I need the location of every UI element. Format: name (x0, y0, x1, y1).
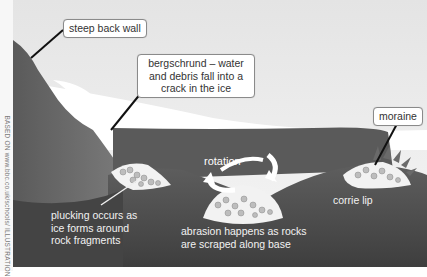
label-abrasion: abrasion happens as rocks are scraped al… (181, 225, 307, 250)
label-line: plucking occurs as (51, 209, 137, 222)
label-plucking: plucking occurs as ice forms around rock… (51, 209, 137, 247)
label-line: rock fragments (51, 234, 137, 247)
credit-strip: BASED ON www.bbc.co.uk/schools/ ILLUSTRA… (0, 0, 13, 271)
label-line: abrasion happens as rocks (181, 225, 307, 238)
label-text: steep back wall (69, 22, 141, 34)
label-line: crack in the ice (143, 82, 249, 95)
label-text: moraine (379, 110, 417, 122)
label-line: bergschrund – water (143, 57, 249, 70)
label-line: are scraped along base (181, 238, 307, 251)
label-steep-back-wall: steep back wall (63, 19, 147, 38)
label-corrie-lip: corrie lip (333, 194, 373, 207)
label-line: and debris fall into a (143, 70, 249, 83)
corrie-diagram: steep back wall bergschrund – water and … (13, 0, 427, 267)
label-moraine: moraine (373, 107, 423, 126)
label-rotation: rotation (204, 155, 241, 167)
label-bergschrund: bergschrund – water and debris fall into… (137, 54, 255, 98)
illustration-credit: BASED ON www.bbc.co.uk/schools/ ILLUSTRA… (4, 115, 11, 276)
label-line: ice forms around (51, 222, 137, 235)
